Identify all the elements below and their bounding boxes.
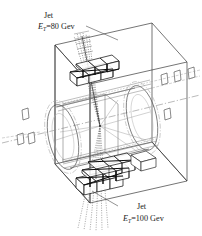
muon-chamber-group-left xyxy=(17,108,35,145)
band-upper-2 xyxy=(57,84,151,107)
box-edge-bottom-right xyxy=(152,142,187,181)
top-jet-energy: ET=80 Gev xyxy=(37,22,76,32)
muon-chamber xyxy=(188,67,195,79)
muon-chamber xyxy=(22,108,29,120)
band-upper-1 xyxy=(56,80,150,103)
top-jet-energy-value: =80 Gev xyxy=(46,22,75,31)
detector-event-display: Jet ET=80 Gev Jet ET=100 Gev xyxy=(0,0,202,236)
muon-chamber xyxy=(174,70,181,82)
detector-layer-band-hatch xyxy=(56,82,156,162)
bottom-jet-label: Jet ET=100 Gev xyxy=(122,202,165,224)
bottom-jet-energy: ET=100 Gev xyxy=(122,214,165,224)
top-jet-label: Jet ET=80 Gev xyxy=(37,11,76,32)
muon-chamber xyxy=(164,108,171,120)
interaction-vertex xyxy=(99,125,101,127)
muon-chamber xyxy=(17,133,24,145)
sec-track-3 xyxy=(100,126,138,152)
top-jet-name: Jet xyxy=(44,11,54,20)
bottom-jet-energy-value: =100 Gev xyxy=(131,214,164,223)
vertex-point xyxy=(99,125,101,127)
lower-calorimeter-cluster xyxy=(76,153,135,195)
muon-chamber-group-right xyxy=(161,67,195,120)
hatch-upper xyxy=(56,82,150,105)
barrel-end-ellipse-right xyxy=(121,83,163,154)
detector-diagram-canvas: Jet ET=80 Gev Jet ET=100 Gev xyxy=(0,0,202,236)
sec-track-4 xyxy=(60,126,100,132)
muon-chamber xyxy=(161,73,168,85)
sec-track-2 xyxy=(100,126,146,140)
bottom-jet-name: Jet xyxy=(137,202,147,211)
uj-h1 xyxy=(74,31,89,34)
top-label-leader xyxy=(86,26,118,40)
sec-track-6 xyxy=(100,100,118,126)
sec-track-1 xyxy=(100,112,150,126)
